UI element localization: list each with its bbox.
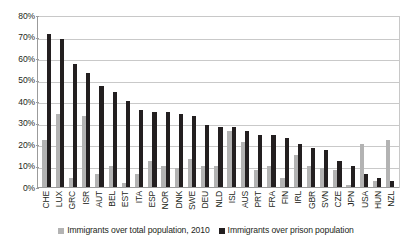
bar-prison-population <box>47 34 51 187</box>
x-tick-label-text: SWE <box>188 191 197 210</box>
y-tick-mark <box>36 38 39 39</box>
x-tick-label-text: SVN <box>321 191 330 208</box>
x-tick-label: ISR <box>79 190 92 222</box>
bar-prison-population <box>113 92 117 187</box>
x-tick-label: SVN <box>318 190 331 222</box>
x-tick-label-text: GBR <box>307 191 316 209</box>
y-tick-mark <box>36 124 39 125</box>
x-tick-label: CHE <box>39 190 52 222</box>
bar-prison-population <box>351 166 355 188</box>
x-tick-label: DNK <box>172 190 185 222</box>
x-tick-label: BEL <box>105 190 118 222</box>
bar-prison-population <box>73 64 77 187</box>
x-tick-label: FIN <box>278 190 291 222</box>
x-tick-label: PRT <box>252 190 265 222</box>
x-tick-label: ITA <box>132 190 145 222</box>
x-tick-label-text: HUN <box>374 191 383 209</box>
x-tick-label: EST <box>119 190 132 222</box>
bar-prison-population <box>152 112 156 187</box>
chart-legend: Immigrants over total population, 2010Im… <box>0 226 412 235</box>
bar-group <box>133 17 146 187</box>
y-axis: 80%70%60%50%40%30%20%10%0% <box>0 0 35 245</box>
y-tick-mark <box>36 188 39 189</box>
bar-group <box>53 17 66 187</box>
y-tick-label: 80% <box>2 12 35 21</box>
bar-group <box>172 17 185 187</box>
bar-group <box>278 17 291 187</box>
bar-group <box>185 17 198 187</box>
y-tick-label: 60% <box>2 55 35 64</box>
legend-swatch-icon <box>58 228 64 234</box>
x-tick-label-text: NLD <box>214 191 223 208</box>
x-tick-label: LUX <box>52 190 65 222</box>
x-tick-label-text: IRL <box>294 191 303 204</box>
x-tick-label: DEU <box>199 190 212 222</box>
y-tick-label: 10% <box>2 162 35 171</box>
bar-prison-population <box>377 178 381 187</box>
bar-group <box>106 17 119 187</box>
bar-group <box>119 17 132 187</box>
x-tick-label-text: PRT <box>254 191 263 207</box>
bar-groups <box>38 17 399 187</box>
x-tick-label: NLD <box>212 190 225 222</box>
x-axis-labels: CHELUXGRCISRAUTBELESTITAESPNORDNKSWEDEUN… <box>37 190 400 222</box>
x-tick-label: CZE <box>332 190 345 222</box>
bar-group <box>384 17 397 187</box>
bar-group <box>146 17 159 187</box>
bar-prison-population <box>166 112 170 187</box>
bar-prison-population <box>245 131 249 187</box>
x-tick-label: GBR <box>305 190 318 222</box>
x-tick-label-text: GRC <box>68 191 77 210</box>
bar-group <box>93 17 106 187</box>
x-tick-label: USA <box>358 190 371 222</box>
x-tick-label: ISL <box>225 190 238 222</box>
y-tick-mark <box>36 16 39 17</box>
x-tick-label-text: DEU <box>201 191 210 209</box>
bar-prison-population <box>218 127 222 187</box>
bar-prison-population <box>126 101 130 187</box>
x-tick-label: FRA <box>265 190 278 222</box>
y-tick-mark <box>36 59 39 60</box>
x-tick-label-text: BEL <box>108 191 117 207</box>
x-tick-label: AUT <box>92 190 105 222</box>
x-tick-label-text: CZE <box>334 191 343 208</box>
bar-group <box>159 17 172 187</box>
x-tick-label-text: ISL <box>228 191 237 203</box>
x-tick-label-text: EST <box>121 191 130 207</box>
bar-group <box>265 17 278 187</box>
x-tick-label: IRL <box>292 190 305 222</box>
x-tick-label: AUS <box>238 190 251 222</box>
x-tick-label: NZL <box>385 190 398 222</box>
y-tick-label: 0% <box>2 184 35 193</box>
y-tick-mark <box>36 102 39 103</box>
x-tick-label-text: AUT <box>95 191 104 208</box>
bar-group <box>238 17 251 187</box>
bar-prison-population <box>298 144 302 187</box>
bar-group <box>291 17 304 187</box>
bar-prison-population <box>232 127 236 187</box>
y-tick-label: 70% <box>2 33 35 42</box>
bar-group <box>212 17 225 187</box>
bar-group <box>357 17 370 187</box>
x-tick-label-text: ESP <box>148 191 157 208</box>
y-tick-label: 20% <box>2 141 35 150</box>
y-tick-label: 50% <box>2 76 35 85</box>
bar-prison-population <box>324 150 328 187</box>
bar-prison-population <box>179 114 183 187</box>
bar-prison-population <box>192 116 196 187</box>
x-tick-label: JPN <box>345 190 358 222</box>
x-tick-label: SWE <box>185 190 198 222</box>
x-tick-label: GRC <box>66 190 79 222</box>
y-tick-label: 40% <box>2 98 35 107</box>
bar-group <box>318 17 331 187</box>
legend-label: Immigrants over total population, 2010 <box>67 226 209 235</box>
immigrants-bar-chart: 80%70%60%50%40%30%20%10%0% CHELUXGRCISRA… <box>0 0 412 245</box>
legend-swatch-icon <box>219 228 225 234</box>
bar-prison-population <box>285 138 289 187</box>
plot-area <box>37 16 400 188</box>
x-tick-label-text: ITA <box>134 191 143 203</box>
bar-group <box>344 17 357 187</box>
bar-prison-population <box>60 39 64 187</box>
x-axis-line <box>38 187 399 188</box>
x-tick-label: NOR <box>159 190 172 222</box>
